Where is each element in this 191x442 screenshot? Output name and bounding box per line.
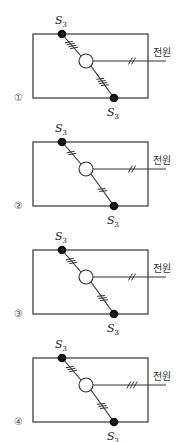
switch-top-dot [58, 246, 67, 255]
switch-bottom-dot [110, 418, 119, 427]
tick-mark [100, 408, 108, 409]
lamp-icon [79, 378, 93, 392]
tick-marks-bottom [97, 295, 108, 300]
tick-mark [98, 189, 106, 190]
switch-bottom-dot [110, 202, 119, 211]
option-number: ① [14, 92, 23, 103]
power-label: 전원 [153, 263, 171, 274]
lamp-icon [79, 162, 93, 176]
wire-top [62, 142, 81, 164]
switch-top-label: S3 [55, 14, 67, 29]
wire-top [62, 34, 81, 56]
tick-mark [98, 81, 106, 82]
tick-marks-bottom [97, 403, 108, 408]
diagram-option-1[interactable]: S3 S3 전원 ① [0, 0, 191, 110]
power-label: 전원 [153, 155, 171, 166]
tick-mark [100, 300, 108, 301]
tick-mark [99, 83, 107, 84]
diagram-option-2[interactable]: S3 S3 전원 ② [0, 108, 191, 218]
lamp-icon [79, 270, 93, 284]
option-number: ② [14, 200, 23, 211]
tick-marks-power [127, 382, 137, 389]
lamp-icon [79, 54, 93, 68]
wire-bottom [91, 174, 114, 206]
switch-top-label: S3 [55, 122, 67, 137]
switch-bottom-dot [110, 310, 119, 319]
tick-mark [96, 78, 104, 79]
power-label: 전원 [153, 47, 171, 58]
switch-top-dot [58, 138, 67, 147]
option-number: ③ [14, 308, 23, 319]
tick-mark [97, 403, 105, 404]
tick-mark [99, 406, 107, 407]
diagram-option-4[interactable]: S3 S3 전원 ④ [0, 324, 191, 434]
option-number: ④ [14, 416, 23, 427]
switch-bottom-label: S3 [107, 430, 119, 442]
wire-bottom [91, 66, 114, 98]
switch-top-dot [58, 354, 67, 363]
tick-marks-top [66, 258, 77, 263]
tick-mark [97, 295, 105, 296]
tick-mark [101, 85, 109, 86]
diagram-option-3[interactable]: S3 S3 전원 ③ [0, 216, 191, 326]
switch-top-dot [58, 30, 67, 39]
switch-top-label: S3 [55, 338, 67, 353]
tick-mark [99, 191, 107, 192]
tick-marks-top [66, 366, 77, 371]
switch-top-label: S3 [55, 230, 67, 245]
tick-mark [99, 298, 107, 299]
switch-bottom-dot [110, 94, 119, 103]
power-label: 전원 [153, 371, 171, 382]
